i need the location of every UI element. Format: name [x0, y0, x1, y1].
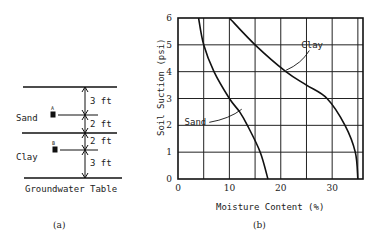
soil-suction-chart: 01020300123456SandClay	[166, 13, 363, 193]
y-tick-label: 5	[166, 40, 172, 50]
sand-layer-label: Sand	[16, 113, 38, 123]
panel-b-caption: (b)	[253, 220, 266, 230]
groundwater-table-label: Groundwater Table	[25, 184, 117, 194]
x-tick-label: 30	[326, 183, 338, 193]
point-b-label: B	[52, 140, 55, 146]
dimension-label-2: 2 ft	[90, 119, 112, 129]
y-tick-label: 0	[166, 174, 172, 184]
x-axis-label: Moisture Content (%)	[216, 202, 324, 212]
y-tick-label: 2	[166, 120, 172, 130]
sand-series-label: Sand	[185, 117, 207, 127]
point-b-marker-icon	[53, 147, 57, 152]
dimension-label-4: 3 ft	[90, 158, 112, 168]
y-axis-label: Soil Suction (psi)	[156, 38, 166, 136]
sand-leader-line	[209, 109, 241, 122]
point-a-label: A	[51, 105, 54, 111]
point-a-marker-icon	[51, 112, 55, 117]
dimension-label-1: 3 ft	[90, 96, 112, 106]
figure: A B Sand Clay 3 ft 2 ft 2 ft 3 ft Ground…	[0, 0, 378, 243]
clay-series-label: Clay	[301, 40, 323, 50]
y-tick-label: 6	[166, 13, 172, 23]
y-tick-label: 3	[166, 94, 172, 104]
dimension-label-3: 2 ft	[90, 136, 112, 146]
x-tick-label: 0	[175, 183, 181, 193]
clay-layer-label: Clay	[16, 152, 38, 162]
x-tick-label: 10	[224, 183, 236, 193]
x-tick-label: 20	[275, 183, 287, 193]
y-tick-label: 4	[166, 67, 172, 77]
panel-a-caption: (a)	[53, 220, 65, 230]
clay-leader-line	[286, 51, 309, 71]
y-tick-label: 1	[166, 147, 172, 157]
